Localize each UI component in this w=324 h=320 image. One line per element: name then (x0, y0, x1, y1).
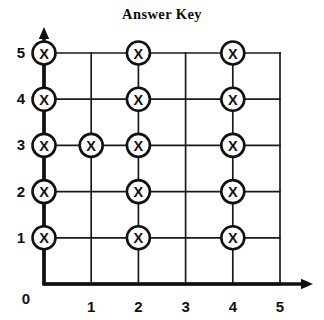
plot-point-marker: X (221, 180, 244, 203)
axis-lines (39, 27, 313, 289)
marker-x-glyph: X (134, 230, 144, 246)
marker-x-glyph: X (134, 46, 144, 62)
plot-point-marker: X (80, 134, 103, 157)
marker-x-glyph: X (134, 92, 144, 108)
x-axis-tick-label: 3 (176, 298, 196, 315)
x-axis-tick-label: 4 (223, 298, 243, 315)
marker-x-glyph: X (228, 92, 238, 108)
y-axis-tick-label: 5 (11, 44, 31, 61)
marker-x-glyph: X (134, 184, 144, 200)
marker-x-glyph: X (228, 230, 238, 246)
x-axis-tick-label: 2 (128, 298, 148, 315)
plot-point-marker: X (127, 88, 150, 111)
x-axis-tick-label: 0 (16, 290, 36, 307)
coordinate-grid-plot: XXXXXXXXXXXXXXXX (0, 0, 324, 320)
plot-point-marker: X (33, 134, 56, 157)
y-axis-arrowhead-icon (39, 27, 49, 39)
plot-point-marker: X (221, 226, 244, 249)
y-axis-tick-label: 1 (11, 229, 31, 246)
marker-x-glyph: X (134, 138, 144, 154)
marker-x-glyph: X (86, 138, 96, 154)
plot-point-marker: X (33, 42, 56, 65)
plot-point-marker: X (127, 42, 150, 65)
y-axis-tick-label: 2 (11, 183, 31, 200)
x-axis-tick-label: 1 (81, 298, 101, 315)
plot-point-marker: X (221, 134, 244, 157)
plot-point-marker: X (33, 88, 56, 111)
marker-x-glyph: X (228, 184, 238, 200)
marker-x-glyph: X (39, 184, 49, 200)
marker-x-glyph: X (228, 138, 238, 154)
marker-x-glyph: X (228, 46, 238, 62)
y-axis-tick-label: 3 (11, 136, 31, 153)
y-axis-tick-label: 4 (11, 90, 31, 107)
answer-key-figure: Answer Key XXXXXXXXXXXXXXXX 012345 12345 (0, 0, 324, 320)
plot-point-marker: X (127, 226, 150, 249)
x-axis-arrowhead-icon (301, 279, 313, 289)
plot-point-marker: X (221, 88, 244, 111)
plot-point-marker: X (33, 180, 56, 203)
plot-point-marker: X (221, 42, 244, 65)
marker-x-glyph: X (39, 46, 49, 62)
grid-lines (44, 53, 280, 284)
marker-x-glyph: X (39, 92, 49, 108)
plot-point-marker: X (127, 134, 150, 157)
plot-point-marker: X (127, 180, 150, 203)
marker-x-glyph: X (39, 230, 49, 246)
plot-point-marker: X (33, 226, 56, 249)
x-axis-tick-label: 5 (270, 298, 290, 315)
marker-x-glyph: X (39, 138, 49, 154)
